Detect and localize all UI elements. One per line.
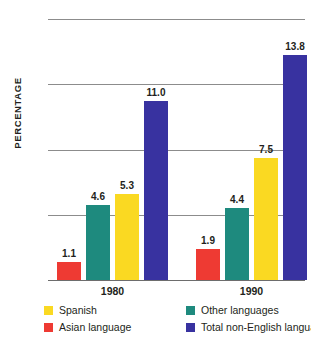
bar bbox=[86, 205, 110, 280]
legend-item: Asian language bbox=[44, 320, 131, 334]
legend-label: Total non-English language bbox=[201, 321, 311, 333]
bar bbox=[144, 101, 168, 280]
y-axis-title: PERCENTAGE bbox=[11, 53, 25, 173]
legend-swatch-icon bbox=[44, 323, 53, 332]
plot-area: 1.14.65.311.01.94.47.513.8 bbox=[48, 19, 305, 280]
legend-item: Other languages bbox=[186, 303, 279, 317]
legend: SpanishAsian languageOther languagesTota… bbox=[44, 303, 311, 337]
bar-value-label: 7.5 bbox=[248, 144, 284, 155]
legend-swatch-icon bbox=[44, 306, 53, 315]
legend-label: Other languages bbox=[201, 304, 279, 316]
bar bbox=[115, 194, 139, 280]
gridline bbox=[48, 19, 305, 20]
bar-value-label: 1.9 bbox=[190, 235, 226, 246]
legend-swatch-icon bbox=[186, 323, 195, 332]
bar bbox=[196, 249, 220, 280]
bar-value-label: 5.3 bbox=[109, 180, 145, 191]
bar-value-label: 1.1 bbox=[51, 248, 87, 259]
legend-swatch-icon bbox=[186, 306, 195, 315]
bar bbox=[283, 55, 307, 280]
gridline bbox=[48, 84, 305, 85]
bar bbox=[57, 262, 81, 280]
legend-label: Spanish bbox=[59, 304, 97, 316]
bar-value-label: 4.4 bbox=[219, 194, 255, 205]
bar-value-label: 4.6 bbox=[80, 191, 116, 202]
legend-label: Asian language bbox=[59, 321, 131, 333]
x-axis-group-label: 1990 bbox=[222, 285, 282, 297]
bar-value-label: 13.8 bbox=[277, 41, 311, 52]
x-axis-group-label: 1980 bbox=[83, 285, 143, 297]
legend-item: Spanish bbox=[44, 303, 97, 317]
bar-value-label: 11.0 bbox=[138, 87, 174, 98]
axis-baseline bbox=[48, 280, 305, 281]
bar-chart: PERCENTAGE 1612840 1.14.65.311.01.94.47.… bbox=[0, 0, 311, 341]
bar bbox=[254, 158, 278, 280]
legend-item: Total non-English language bbox=[186, 320, 311, 334]
bar bbox=[225, 208, 249, 280]
